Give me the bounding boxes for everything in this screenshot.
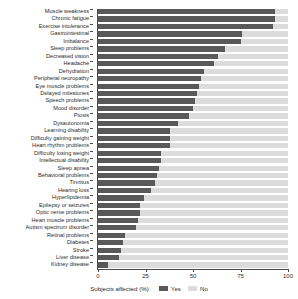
bar-row: [98, 16, 288, 21]
bar-segment-no: [151, 188, 288, 193]
y-axis-label: Tinnitus: [0, 180, 93, 185]
bar-segment-no: [218, 54, 288, 59]
y-axis-label: Gastrointestinal: [0, 31, 93, 36]
bar-segment-no: [242, 31, 288, 36]
y-axis-label: Liver disease: [0, 255, 93, 260]
y-axis-tick: [90, 233, 93, 234]
bar-segment-yes: [98, 113, 189, 118]
bar-segment-yes: [98, 121, 178, 126]
bar-row: [98, 54, 288, 59]
y-axis-tick: [90, 195, 93, 196]
bar-segment-no: [241, 39, 289, 44]
bar-segment-no: [144, 195, 288, 200]
bar-rows: [98, 9, 288, 268]
bar-segment-no: [214, 61, 288, 66]
bar-row: [98, 76, 288, 81]
y-axis-label: Speech problems: [0, 98, 93, 103]
y-axis-tick: [90, 240, 93, 241]
bar-segment-no: [123, 240, 288, 245]
bar-row: [98, 143, 288, 148]
bar-segment-no: [161, 151, 288, 156]
bar-segment-no: [199, 84, 288, 89]
legend-label-no: No: [200, 285, 208, 292]
bar-segment-no: [273, 24, 288, 29]
bar-segment-yes: [98, 31, 242, 36]
bar-segment-no: [193, 106, 288, 111]
bar-segment-yes: [98, 240, 123, 245]
bar-segment-yes: [98, 218, 138, 223]
bar-segment-yes: [98, 9, 275, 14]
bar-row: [98, 136, 288, 141]
y-axis-tick: [90, 262, 93, 263]
y-axis-label: Epilepsy or seizures: [0, 203, 93, 208]
y-axis-tick: [90, 255, 93, 256]
bar-segment-yes: [98, 69, 204, 74]
bar-row: [98, 9, 288, 14]
x-axis-tick: [241, 269, 242, 272]
legend-item-no: No: [188, 285, 208, 292]
y-axis-label: Optic nerve problems: [0, 210, 93, 215]
x-axis-tick: [193, 269, 194, 272]
y-axis-label: Muscle weakness: [0, 9, 93, 14]
bar-row: [98, 84, 288, 89]
bar-row: [98, 61, 288, 66]
y-axis-label: Autism spectrum disorder: [0, 225, 93, 230]
bar-segment-no: [121, 248, 288, 253]
y-axis-label: Learning disability: [0, 128, 93, 133]
bar-row: [98, 195, 288, 200]
bar-segment-yes: [98, 262, 108, 267]
bar-row: [98, 128, 288, 133]
y-axis-tick: [90, 84, 93, 85]
bar-row: [98, 262, 288, 267]
y-axis-label: Sleep apnea: [0, 166, 93, 171]
y-axis-tick: [90, 128, 93, 129]
bar-row: [98, 69, 288, 74]
y-axis-tick: [90, 39, 93, 40]
legend-swatch-yes: [159, 286, 168, 291]
bar-segment-yes: [98, 203, 140, 208]
y-axis-tick: [90, 54, 93, 55]
bar-segment-no: [195, 98, 288, 103]
bar-row: [98, 210, 288, 215]
legend-title: Subjects affected (%): [90, 285, 149, 292]
y-axis-tick: [90, 106, 93, 107]
y-axis-tick: [90, 180, 93, 181]
y-axis-label: Dysautonomia: [0, 121, 93, 126]
bar-segment-no: [125, 233, 288, 238]
bar-segment-yes: [98, 106, 193, 111]
bar-row: [98, 106, 288, 111]
y-axis-tick: [90, 24, 93, 25]
bar-segment-yes: [98, 158, 161, 163]
y-axis-label: Retinal problems: [0, 233, 93, 238]
x-axis-tick-label: 100: [283, 273, 293, 279]
stacked-bar-chart: Muscle weaknessChronic fatigueExercise i…: [0, 0, 298, 299]
bar-segment-yes: [98, 151, 161, 156]
y-axis-tick: [90, 16, 93, 17]
bar-row: [98, 46, 288, 51]
x-axis-tick-label: 0: [96, 273, 99, 279]
bar-segment-yes: [98, 54, 218, 59]
bar-segment-yes: [98, 91, 197, 96]
bar-segment-yes: [98, 180, 155, 185]
bar-row: [98, 91, 288, 96]
bar-row: [98, 39, 288, 44]
bar-segment-no: [138, 218, 288, 223]
bar-segment-no: [157, 173, 288, 178]
bar-row: [98, 24, 288, 29]
y-axis-label: Behavioral problems: [0, 173, 93, 178]
y-axis-label: Ptosis: [0, 113, 93, 118]
y-axis-tick: [90, 76, 93, 77]
y-axis-tick: [90, 143, 93, 144]
y-axis-tick: [90, 91, 93, 92]
bar-row: [98, 225, 288, 230]
bar-segment-no: [140, 203, 288, 208]
y-axis-label: Heart rhythm problems: [0, 143, 93, 148]
bar-row: [98, 180, 288, 185]
y-axis-label: Hyperlipidemia: [0, 195, 93, 200]
bar-segment-yes: [98, 24, 273, 29]
bar-segment-yes: [98, 61, 214, 66]
bar-segment-no: [204, 69, 288, 74]
y-axis-label: Eye muscle problems: [0, 84, 93, 89]
y-axis-labels: Muscle weaknessChronic fatigueExercise i…: [0, 9, 93, 268]
bar-row: [98, 121, 288, 126]
